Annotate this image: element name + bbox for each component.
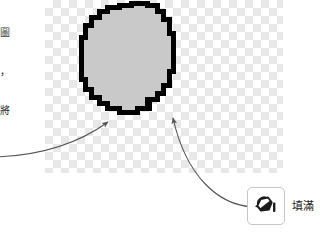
paint-bucket-icon	[254, 194, 278, 218]
filled-circle-graphic[interactable]	[45, 0, 283, 173]
document-text-fragment: 的圖 籤， ，將	[0, 0, 42, 143]
shape-layer	[45, 0, 283, 173]
shape-outline-and-fill	[81, 3, 173, 112]
document-text-line-2: 籤，	[0, 65, 42, 78]
screenshot-stage: 的圖 籤， ，將	[0, 0, 322, 238]
document-text-line-3: ，將	[0, 104, 42, 117]
fill-tool-label: 填滿	[292, 201, 314, 212]
tool-callout: 填滿	[247, 187, 314, 225]
document-text-line-1: 的圖	[0, 26, 42, 39]
fill-tool-button[interactable]	[247, 187, 285, 225]
